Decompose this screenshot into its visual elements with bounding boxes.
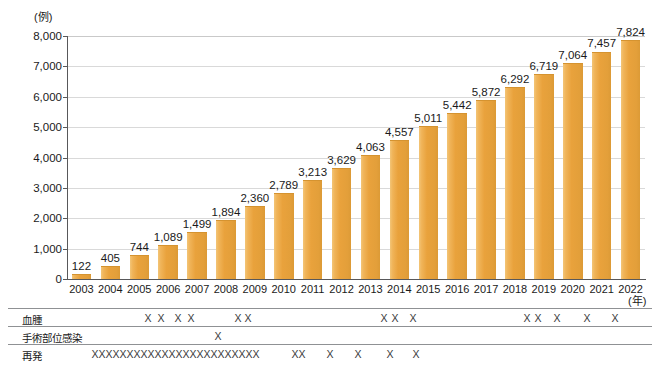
x-tick-label: 2003 [65, 283, 97, 295]
bar [72, 274, 92, 279]
complication-mark: X [611, 313, 618, 324]
complication-mark: X [409, 313, 416, 324]
y-tick-label: 8,000 [33, 30, 62, 42]
table-row-label: 血腫 [22, 312, 42, 327]
complication-mark: X [157, 313, 164, 324]
complication-mark: X [231, 349, 238, 360]
x-tick-label: 2007 [181, 283, 213, 295]
bar [476, 100, 496, 279]
complication-mark: X [523, 313, 530, 324]
complication-mark: X [140, 349, 147, 360]
x-tick-label: 2020 [557, 283, 589, 295]
complication-mark: X [98, 349, 105, 360]
bar [216, 220, 236, 279]
y-tick-label: 6,000 [33, 91, 62, 103]
complication-mark: X [553, 313, 560, 324]
x-tick-label: 2016 [441, 283, 473, 295]
bar-value-label: 1,894 [207, 206, 245, 218]
complication-mark: X [386, 349, 393, 360]
bar [245, 206, 265, 279]
bar-value-label: 5,011 [409, 112, 447, 124]
y-tick-mark [63, 279, 68, 280]
bar [332, 168, 352, 279]
complication-mark: X [189, 349, 196, 360]
x-tick-label: 2021 [586, 283, 618, 295]
bar-value-label: 7,064 [554, 49, 592, 61]
bar [592, 52, 612, 280]
complication-mark: X [144, 313, 151, 324]
y-tick-label: 0 [56, 273, 62, 285]
x-tick-label: 2018 [499, 283, 531, 295]
x-tick-label: 2022 [615, 283, 647, 295]
complication-mark: X [252, 349, 259, 360]
bar-value-label: 7,457 [583, 37, 621, 49]
x-tick-label: 2009 [239, 283, 271, 295]
complication-mark: X [203, 349, 210, 360]
complication-mark: X [380, 313, 387, 324]
complication-mark: X [234, 313, 241, 324]
complication-mark: X [112, 349, 119, 360]
complication-mark: X [217, 349, 224, 360]
y-tick-label: 7,000 [33, 60, 62, 72]
bar [563, 63, 583, 279]
complication-mark: X [391, 313, 398, 324]
y-tick-label: 4,000 [33, 152, 62, 164]
complication-mark: X [238, 349, 245, 360]
complication-mark: X [196, 349, 203, 360]
x-tick-label: 2019 [528, 283, 560, 295]
bar [130, 255, 150, 279]
x-tick-label: 2014 [383, 283, 415, 295]
y-tick-label: 5,000 [33, 121, 62, 133]
complication-mark: X [214, 331, 221, 342]
x-tick-label: 2015 [412, 283, 444, 295]
x-tick-label: 2017 [470, 283, 502, 295]
bar-value-label: 7,824 [612, 26, 650, 38]
x-tick-label: 2004 [94, 283, 126, 295]
bar [447, 113, 467, 279]
bar-value-label: 3,213 [294, 166, 332, 178]
bar-value-label: 5,872 [467, 86, 505, 98]
bar-value-label: 6,719 [525, 60, 563, 72]
complication-mark: X [161, 349, 168, 360]
complication-mark: X [291, 349, 298, 360]
complication-mark: X [154, 349, 161, 360]
complication-mark: X [412, 349, 419, 360]
bar-value-label: 1,089 [149, 231, 187, 243]
bar-value-label: 6,292 [496, 73, 534, 85]
complication-mark: X [182, 349, 189, 360]
y-tick-label: 2,000 [33, 212, 62, 224]
complication-mark: X [174, 313, 181, 324]
bar [534, 74, 554, 279]
complication-mark: X [224, 349, 231, 360]
complication-mark: X [105, 349, 112, 360]
x-tick-label: 2013 [354, 283, 386, 295]
bar [419, 126, 439, 279]
bar [303, 180, 323, 279]
bar [158, 245, 178, 279]
bar-value-label: 4,063 [351, 141, 389, 153]
bar-value-label: 2,789 [265, 179, 303, 191]
x-tick-label: 2011 [297, 283, 329, 295]
complication-mark: X [326, 349, 333, 360]
table-row-label: 手術部位感染 [22, 330, 82, 345]
bar [187, 232, 207, 279]
bar [505, 87, 525, 279]
complication-mark: X [210, 349, 217, 360]
complication-mark: X [133, 349, 140, 360]
table-row: 手術部位感染X [8, 326, 652, 344]
y-axis-unit-label: (例) [34, 8, 52, 24]
y-tick-label: 3,000 [33, 182, 62, 194]
complication-mark: X [91, 349, 98, 360]
bar [390, 140, 410, 279]
complication-mark: X [168, 349, 175, 360]
complication-mark: X [244, 313, 251, 324]
complication-mark: X [298, 349, 305, 360]
bar-value-label: 2,360 [236, 192, 274, 204]
bar [274, 193, 294, 279]
x-axis-line [67, 279, 646, 280]
bar-value-label: 405 [91, 252, 129, 264]
complication-table: 血腫XXXXXXXXXXXXXX手術部位感染X再発XXXXXXXXXXXXXXX… [8, 308, 652, 366]
bar-value-label: 1,499 [178, 218, 216, 230]
bar-value-label: 5,442 [438, 99, 476, 111]
table-row: 再発XXXXXXXXXXXXXXXXXXXXXXXXXXXXXX [8, 344, 652, 362]
